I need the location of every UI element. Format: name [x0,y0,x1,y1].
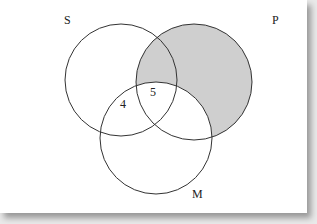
venn-diagram: S P M 4 5 [0,0,317,224]
set-s-label: S [64,13,71,27]
set-p-label: P [272,13,279,27]
set-m-label: M [192,187,203,201]
region-s-m-value: 4 [120,97,126,111]
region-s-p-m-value: 5 [150,85,156,99]
